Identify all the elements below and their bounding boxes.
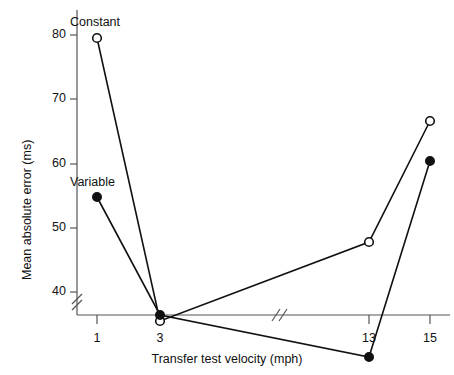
chart-figure: 80 70 60 50 40 1 3 13 15 Constant Variab…	[0, 0, 454, 375]
y-tick-label-50: 50	[36, 220, 66, 234]
y-axis-title-wrap: Mean absolute error (ms)	[0, 0, 26, 320]
series-annotation-constant: Constant	[70, 15, 120, 29]
series-annotation-variable: Variable	[70, 175, 115, 189]
chart-plot-area	[0, 0, 454, 375]
x-tick-label-3: 3	[145, 331, 175, 345]
x-axis-title: Transfer test velocity (mph)	[0, 352, 454, 366]
y-tick-label-70: 70	[36, 91, 66, 105]
y-tick-label-80: 80	[36, 27, 66, 41]
x-tick-label-15: 15	[415, 331, 445, 345]
x-tick-label-13: 13	[354, 331, 384, 345]
x-tick-label-1: 1	[82, 331, 112, 345]
y-axis-ticks	[70, 35, 77, 292]
y-tick-label-40: 40	[36, 284, 66, 298]
series-line-constant	[97, 38, 430, 321]
y-tick-label-60: 60	[36, 156, 66, 170]
y-axis-title: Mean absolute error (ms)	[20, 140, 34, 280]
